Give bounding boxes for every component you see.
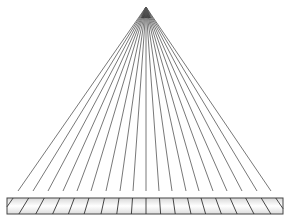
ray-line (146, 7, 271, 191)
ray-line (120, 7, 146, 191)
ray-line (146, 7, 242, 191)
bar-outline (7, 198, 283, 214)
ray-line (18, 7, 146, 191)
ray-line (146, 7, 199, 191)
ray-line (63, 7, 146, 191)
ray-fan-diagram (0, 0, 288, 219)
ray-line (146, 7, 257, 191)
ray-line (106, 7, 146, 191)
ray-line (133, 7, 146, 191)
ray-line (146, 7, 159, 191)
ray-line (146, 7, 186, 191)
ray-line (91, 7, 146, 191)
ray-line (77, 7, 146, 191)
ray-line (48, 7, 146, 191)
ray-line (146, 7, 172, 191)
ray-line (33, 7, 146, 191)
rays-group (18, 7, 271, 191)
ray-line (146, 7, 213, 191)
segmented-bar (7, 198, 283, 214)
ray-line (146, 7, 227, 191)
